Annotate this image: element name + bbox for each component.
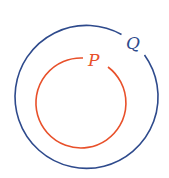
set-p-label: P [87, 50, 100, 70]
subset-diagram: Q P [0, 0, 169, 178]
set-q-label: Q [126, 33, 140, 53]
set-p-circle [36, 58, 126, 148]
